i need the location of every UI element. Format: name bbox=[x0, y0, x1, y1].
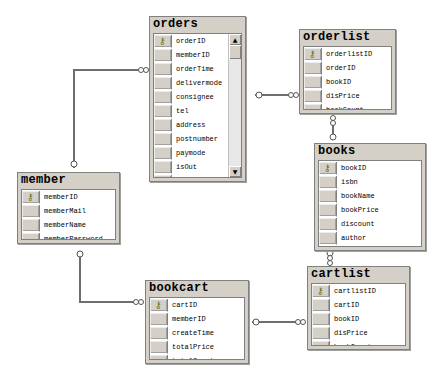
key-icon: ⚷ bbox=[27, 192, 34, 203]
field-row[interactable]: ⚷orderlistID bbox=[304, 47, 391, 61]
key-icon: ⚷ bbox=[155, 300, 162, 311]
table-member[interactable]: member ⚷memberID memberMail memberName m… bbox=[17, 172, 120, 244]
field-row[interactable]: ⚷memberID bbox=[22, 190, 115, 204]
field-row[interactable]: bookCount bbox=[304, 103, 391, 110]
scroll-down-button[interactable]: ▼ bbox=[229, 166, 241, 177]
field-list: ⚷bookID isbn bookName bookPrice discount… bbox=[318, 160, 422, 247]
table-orders[interactable]: orders ⚷orderID memberID orderTime deliv… bbox=[149, 16, 246, 182]
table-title: books bbox=[315, 144, 425, 159]
field-row[interactable]: orderID bbox=[304, 61, 391, 75]
table-orderlist[interactable]: orderlist ⚷orderlistID orderID bookID di… bbox=[299, 29, 396, 114]
field-row[interactable]: memberMail bbox=[22, 204, 115, 218]
field-row[interactable]: disPrice bbox=[312, 326, 405, 340]
table-title: orders bbox=[150, 17, 245, 32]
field-row[interactable]: disPrice bbox=[304, 89, 391, 103]
field-list: ⚷orderlistID orderID bookID disPrice boo… bbox=[303, 46, 392, 110]
key-icon: ⚷ bbox=[317, 286, 324, 297]
field-row[interactable]: bookCount bbox=[312, 340, 405, 346]
field-row[interactable]: bookPrice bbox=[319, 203, 421, 217]
link-member-orders bbox=[74, 70, 140, 168]
field-row[interactable]: publisher bbox=[319, 245, 421, 247]
field-row[interactable]: memberName bbox=[22, 218, 115, 232]
scroll-up-button[interactable]: ▲ bbox=[229, 34, 241, 45]
field-row[interactable]: bookID bbox=[312, 312, 405, 326]
table-title: bookcart bbox=[146, 281, 248, 296]
table-bookcart[interactable]: bookcart ⚷cartID memberID createTime tot… bbox=[145, 280, 249, 364]
field-row[interactable]: totalCount bbox=[150, 354, 244, 360]
table-title: cartlist bbox=[308, 267, 409, 282]
one-end-icon bbox=[71, 161, 77, 167]
field-row[interactable]: createTime bbox=[150, 326, 244, 340]
field-list: ⚷orderID memberID orderTime delivermode … bbox=[153, 33, 242, 178]
field-row[interactable]: discount bbox=[319, 217, 421, 231]
many-end-icon bbox=[139, 68, 144, 73]
many-end-icon bbox=[134, 300, 139, 305]
field-row[interactable]: bookID bbox=[304, 75, 391, 89]
key-icon: ⚷ bbox=[324, 163, 331, 174]
table-books[interactable]: books ⚷bookID isbn bookName bookPrice di… bbox=[314, 143, 426, 251]
field-row[interactable]: isbn bbox=[319, 175, 421, 189]
field-row[interactable]: ⚷cartID bbox=[150, 298, 244, 312]
field-row[interactable]: memberPassword bbox=[22, 232, 115, 240]
field-row[interactable]: cartID bbox=[312, 298, 405, 312]
many-end-icon bbox=[331, 116, 336, 121]
field-row[interactable]: totalPrice bbox=[150, 340, 244, 354]
key-icon: ⚷ bbox=[309, 49, 316, 60]
one-end-icon bbox=[330, 134, 336, 140]
scrollbar[interactable]: ▲ ▼ bbox=[228, 34, 241, 177]
many-end-icon bbox=[296, 320, 301, 325]
field-list: ⚷cartID memberID createTime totalPrice t… bbox=[149, 297, 245, 360]
field-list: ⚷memberID memberMail memberName memberPa… bbox=[21, 189, 116, 240]
many-end-icon bbox=[328, 256, 333, 261]
table-title: member bbox=[18, 173, 119, 188]
many-end-icon bbox=[289, 93, 294, 98]
table-title: orderlist bbox=[300, 30, 395, 45]
field-row[interactable]: author bbox=[319, 231, 421, 245]
one-end-icon bbox=[253, 319, 259, 325]
key-icon: ⚷ bbox=[159, 36, 166, 47]
one-end-icon bbox=[256, 92, 262, 98]
one-end-icon bbox=[77, 251, 83, 257]
scroll-thumb[interactable] bbox=[229, 45, 241, 59]
field-list: ⚷cartlistID cartID bookID disPrice bookC… bbox=[311, 283, 406, 346]
table-cartlist[interactable]: cartlist ⚷cartlistID cartID bookID disPr… bbox=[307, 266, 410, 350]
link-member-bookcart bbox=[80, 251, 140, 302]
field-row[interactable]: memberID bbox=[150, 312, 244, 326]
field-row[interactable]: bookName bbox=[319, 189, 421, 203]
field-row[interactable]: ⚷bookID bbox=[319, 161, 421, 175]
field-row[interactable]: ⚷cartlistID bbox=[312, 284, 405, 298]
